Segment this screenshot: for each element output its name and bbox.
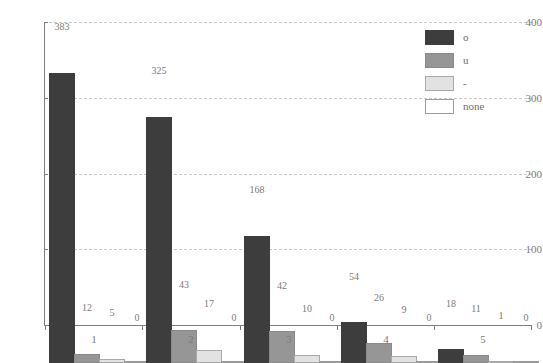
x-tick-mark-2 [240,325,241,330]
bar-value-group1-o: 383 [45,22,79,32]
legend-swatch-dash-icon [425,76,454,91]
x-axis-group-label-2: 2 [171,333,211,345]
bar-value-group3-u: 42 [265,281,299,291]
y-axis-label-400: 400 [506,17,542,28]
x-tick-mark-5 [531,325,532,330]
legend-entry-dash[interactable]: - [425,74,525,97]
bar-group1-series-o [49,73,75,363]
bar-value-group4-o: 54 [337,272,371,282]
gridline-400 [44,22,532,23]
legend-label-o: o [463,31,469,44]
y-tick-mark-200 [44,174,48,175]
legend-entry-o[interactable]: o [425,28,525,51]
bar-group4-series-u [366,343,392,363]
x-axis-group-label-1: 1 [74,333,114,345]
legend-swatch-none-icon [425,99,454,114]
x-tick-mark-3 [337,325,338,330]
bar-group5-series-o [438,349,464,363]
legend-entry-u[interactable]: u [425,51,525,74]
bar-group3-series-o [244,236,270,363]
bar-value-group2-dash: 17 [192,299,226,309]
y-tick-mark-100 [44,249,48,250]
bar-value-group3-o: 168 [240,185,274,195]
x-axis-group-label-3: 3 [269,333,309,345]
x-tick-mark-0 [45,325,46,330]
bar-group5-series-u [463,355,489,363]
bar-group2-series-o [146,117,172,363]
legend-label-u: u [463,54,469,67]
legend-label-dash: - [463,77,467,90]
x-tick-mark-4 [434,325,435,330]
legend-label-none: none [463,100,484,113]
bar-group1-series-u [74,354,100,363]
y-axis-label-200: 200 [506,169,542,180]
bar-value-group4-u: 26 [362,293,396,303]
gridline-200 [44,174,532,175]
bar-value-group5-none: 0 [509,313,543,323]
legend: o u - none [425,28,525,120]
bar-group2-series-dash [196,350,222,363]
x-tick-mark-1 [142,325,143,330]
x-axis-line [44,325,532,326]
bar-value-group4-none: 0 [412,313,446,323]
legend-entry-none[interactable]: none [425,97,525,120]
y-tick-mark-300 [44,98,48,99]
x-axis-group-label-4: 4 [366,333,406,345]
legend-swatch-u-icon [425,53,454,68]
legend-swatch-o-icon [425,30,454,45]
bar-group3-series-dash [294,355,320,363]
bar-group4-series-o [341,322,367,363]
bar-value-group2-o: 325 [142,66,176,76]
gridline-100 [44,249,532,250]
bar-group4-series-dash [391,356,417,363]
bar-group1-series-dash [99,359,125,363]
bar-value-group2-u: 43 [167,280,201,290]
y-axis-label-100: 100 [506,244,542,255]
x-axis-group-label-5: 5 [463,333,503,345]
